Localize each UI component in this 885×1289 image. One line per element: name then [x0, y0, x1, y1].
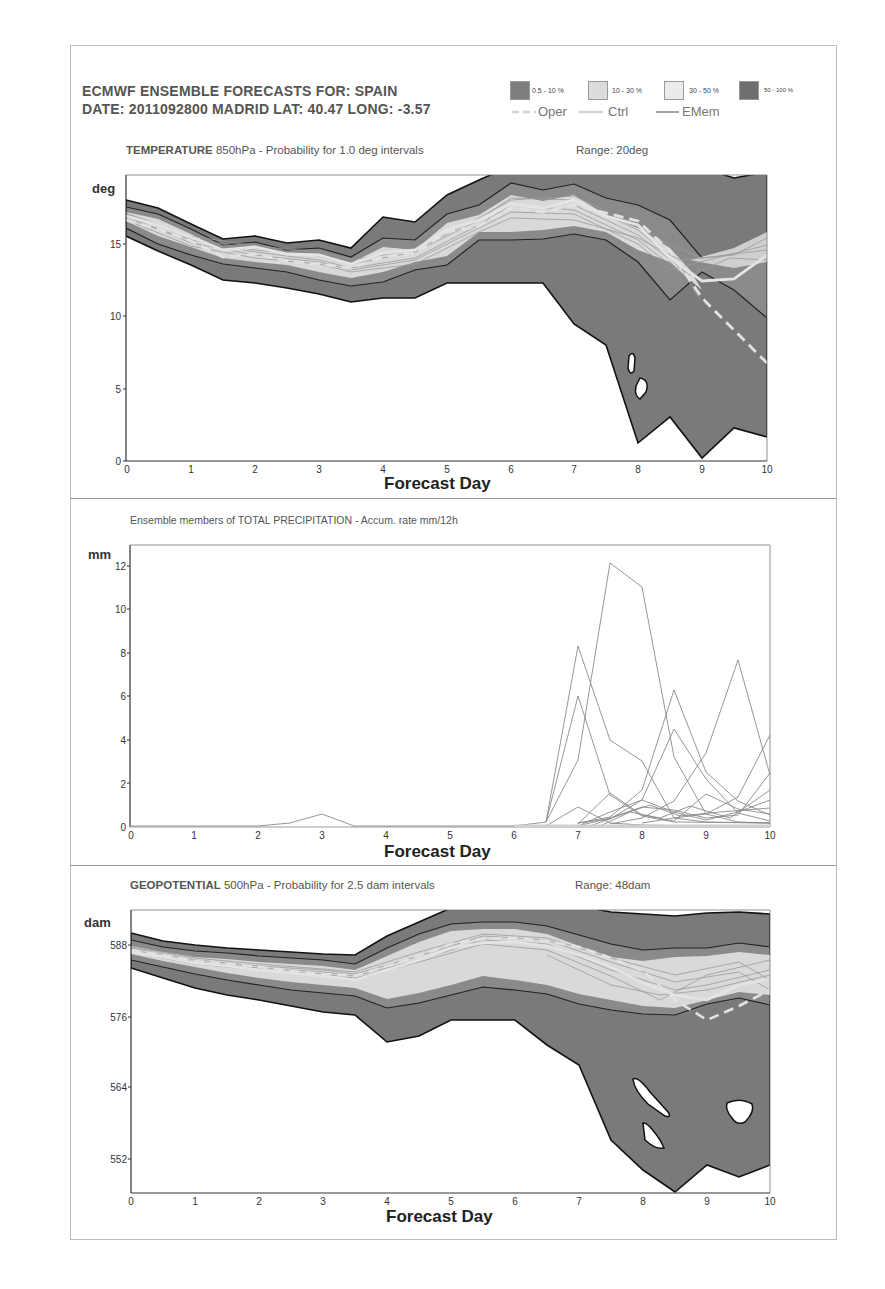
- svg-text:6: 6: [512, 1196, 518, 1207]
- svg-text:10: 10: [764, 1196, 776, 1207]
- svg-text:3: 3: [320, 1196, 326, 1207]
- svg-text:576: 576: [110, 1012, 127, 1023]
- svg-text:1: 1: [192, 1196, 198, 1207]
- svg-text:9: 9: [704, 1196, 710, 1207]
- svg-text:5: 5: [448, 1196, 454, 1207]
- svg-text:4: 4: [384, 1196, 390, 1207]
- svg-text:8: 8: [640, 1196, 646, 1207]
- svg-text:564: 564: [110, 1082, 127, 1093]
- svg-text:0: 0: [128, 1196, 134, 1207]
- svg-text:7: 7: [576, 1196, 582, 1207]
- svg-text:2: 2: [256, 1196, 262, 1207]
- svg-text:588: 588: [110, 940, 127, 951]
- svg-text:552: 552: [110, 1154, 127, 1165]
- geopotential-chart: 588576564552 012345678910: [0, 0, 885, 1289]
